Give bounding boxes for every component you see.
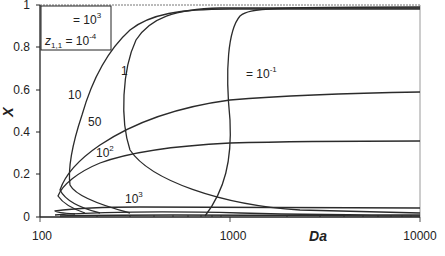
curve-label-0.1: = 10-1 <box>246 65 277 81</box>
y-tick-label: 0.4 <box>13 125 30 139</box>
curve-label-1000: 103 <box>125 190 143 206</box>
curve-label-100: 102 <box>96 144 114 160</box>
curve-50 <box>60 92 420 213</box>
y-tick-label: 0.6 <box>13 83 30 97</box>
y-tick-label: 1 <box>23 0 30 12</box>
y-tick-label: 0.8 <box>13 40 30 54</box>
x-tick-label: 100 <box>32 229 52 243</box>
y-axis-title: X <box>0 106 16 118</box>
y-tick-label: 0.2 <box>13 167 30 181</box>
curve-10 <box>70 9 421 213</box>
x-tick-label: 1000 <box>220 229 247 243</box>
curve-label-1: 1 <box>121 64 128 78</box>
conversion-chart: 1 0.8 0.6 0.4 0.2 0 100 1000 10000 Da X <box>0 0 445 256</box>
x-axis-title: Da <box>309 228 327 244</box>
curve-1 <box>124 8 420 213</box>
curve-label-50: 50 <box>88 115 102 129</box>
curve-0.1 <box>205 7 420 216</box>
x-tick-label: 10000 <box>403 229 437 243</box>
y-tick-label: 0 <box>23 210 30 224</box>
curve-label-10: 10 <box>68 88 82 102</box>
